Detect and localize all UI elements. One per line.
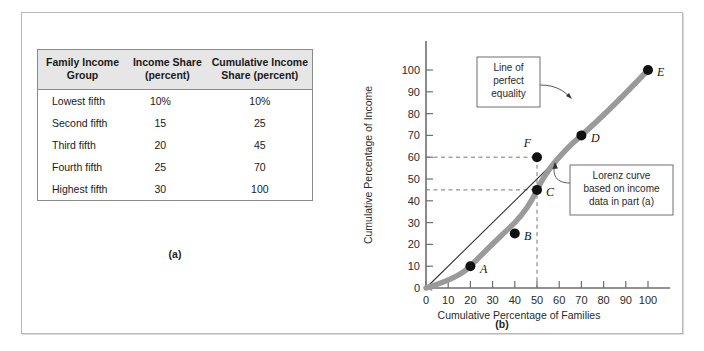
y-tick-label: 70 xyxy=(408,129,420,141)
annotation-equality-line-3: equality xyxy=(491,88,525,99)
annotation-equality-line-2: perfect xyxy=(493,75,524,86)
lorenz-curve-chart: 0 10 20 30 40 50 60 70 80 90 100 xyxy=(342,25,677,325)
x-tick-label: 40 xyxy=(509,294,521,306)
data-point-label-b: B xyxy=(524,229,532,243)
column-header-cumulative-income-share: Cumulative Income Share (percent) xyxy=(208,50,313,90)
data-point-label-f: F xyxy=(523,136,532,150)
cell-group: Lowest fifth xyxy=(38,89,128,112)
annotation-lorenz-line-3: data in part (a) xyxy=(589,196,654,207)
x-tick-label: 70 xyxy=(575,294,587,306)
cell-income-share: 10% xyxy=(127,89,208,112)
table-row: Second fifth 15 25 xyxy=(38,112,313,134)
table-row: Lowest fifth 10% 10% xyxy=(38,89,313,112)
y-axis-ticks xyxy=(426,70,433,288)
cell-group: Third fifth xyxy=(38,134,128,156)
data-point-label-d: D xyxy=(590,131,600,145)
x-tick-label: 90 xyxy=(620,294,632,306)
data-point-f xyxy=(532,152,542,162)
table-body: Lowest fifth 10% 10% Second fifth 15 25 … xyxy=(38,89,313,200)
data-point-a xyxy=(465,261,475,271)
data-point-d xyxy=(576,130,586,140)
y-tick-label: 80 xyxy=(408,108,420,120)
annotation-lorenz-curve: Lorenz curve based on income data in par… xyxy=(553,162,674,215)
y-axis-title: Cumulative Percentage of Income xyxy=(362,86,374,244)
cell-income-share: 25 xyxy=(127,156,208,178)
table-header: Family Income Group Income Share (percen… xyxy=(38,50,313,90)
y-tick-label: 90 xyxy=(408,86,420,98)
x-axis-tick-labels: 0 10 20 30 40 50 60 70 80 90 100 xyxy=(423,294,657,306)
header-line-1: Family Income xyxy=(46,56,119,68)
cell-income-share: 15 xyxy=(127,112,208,134)
y-tick-label: 60 xyxy=(408,151,420,163)
figure-frame: Family Income Group Income Share (percen… xyxy=(21,12,683,334)
x-tick-label: 0 xyxy=(423,294,429,306)
cell-cumulative-share: 25 xyxy=(208,112,313,134)
header-line-1: Cumulative Income xyxy=(212,56,308,68)
x-tick-label: 20 xyxy=(464,294,476,306)
y-tick-label: 10 xyxy=(408,260,420,272)
x-tick-label: 10 xyxy=(442,294,454,306)
annotation-line-of-perfect-equality: Line of perfect equality xyxy=(477,57,572,107)
data-point-label-c: C xyxy=(546,185,555,199)
y-tick-label: 30 xyxy=(408,217,420,229)
cell-cumulative-share: 70 xyxy=(208,156,313,178)
x-tick-label: 50 xyxy=(531,294,543,306)
x-tick-label: 60 xyxy=(553,294,565,306)
column-header-income-share: Income Share (percent) xyxy=(127,50,208,90)
column-header-family-income-group: Family Income Group xyxy=(38,50,128,90)
income-distribution-table: Family Income Group Income Share (percen… xyxy=(37,49,313,201)
header-line-2: Group xyxy=(67,69,99,81)
cell-group: Fourth fifth xyxy=(38,156,128,178)
y-tick-label: 40 xyxy=(408,195,420,207)
data-point-b xyxy=(510,229,520,239)
x-tick-label: 80 xyxy=(597,294,609,306)
header-line-2: Share (percent) xyxy=(221,69,298,81)
table-header-row: Family Income Group Income Share (percen… xyxy=(38,50,313,90)
data-point-c xyxy=(532,185,542,195)
data-point-e xyxy=(643,65,653,75)
header-line-1: Income Share xyxy=(133,56,202,68)
cell-cumulative-share: 100 xyxy=(208,178,313,201)
panel-a-caption: (a) xyxy=(37,248,313,260)
y-tick-label: 50 xyxy=(408,173,420,185)
annotation-lorenz-line-2: based on income xyxy=(583,183,660,194)
panel-b-caption: (b) xyxy=(342,318,662,330)
y-tick-label: 0 xyxy=(414,282,420,294)
y-tick-label: 20 xyxy=(408,238,420,250)
table-row: Highest fifth 30 100 xyxy=(38,178,313,201)
data-point-label-e: E xyxy=(656,65,665,79)
cell-group: Second fifth xyxy=(38,112,128,134)
cell-income-share: 30 xyxy=(127,178,208,201)
y-tick-label: 100 xyxy=(402,64,420,76)
x-tick-label: 30 xyxy=(486,294,498,306)
cell-cumulative-share: 45 xyxy=(208,134,313,156)
x-tick-label: 100 xyxy=(639,294,657,306)
panel-b-chart-container: 0 10 20 30 40 50 60 70 80 90 100 xyxy=(342,25,677,325)
annotation-lorenz-line-1: Lorenz curve xyxy=(593,170,651,181)
annotation-equality-line-1: Line of xyxy=(493,62,523,73)
panel-a-table-container: Family Income Group Income Share (percen… xyxy=(37,49,313,201)
header-line-2: (percent) xyxy=(145,69,190,81)
cell-group: Highest fifth xyxy=(38,178,128,201)
cell-income-share: 20 xyxy=(127,134,208,156)
table-row: Fourth fifth 25 70 xyxy=(38,156,313,178)
table-row: Third fifth 20 45 xyxy=(38,134,313,156)
cell-cumulative-share: 10% xyxy=(208,89,313,112)
y-axis-tick-labels: 0 10 20 30 40 50 60 70 80 90 100 xyxy=(402,64,420,294)
data-point-label-a: A xyxy=(479,262,488,276)
